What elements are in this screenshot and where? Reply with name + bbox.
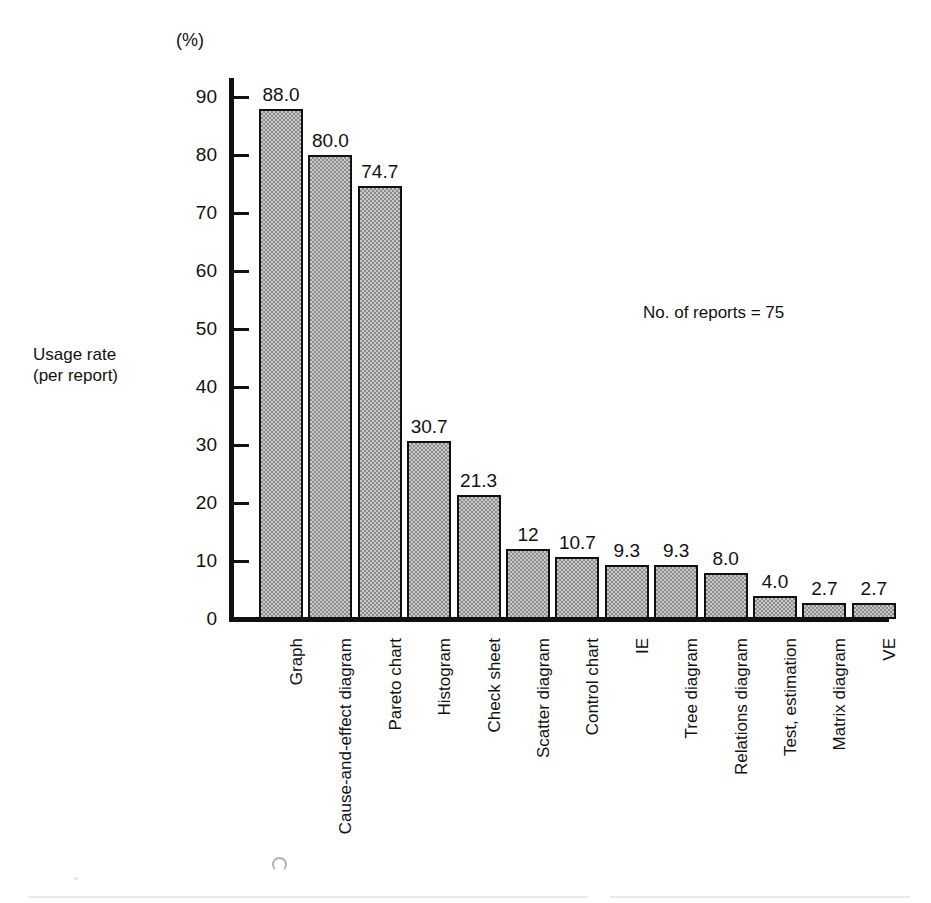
bar [259, 109, 303, 619]
x-axis-category-label: Control chart [584, 638, 601, 735]
bar [407, 441, 451, 619]
y-axis-tick-label: 90 [137, 87, 217, 106]
x-axis-category-label-text: Matrix diagram [831, 638, 848, 750]
bar-value-label: 80.0 [295, 131, 365, 150]
y-axis-tick-label-text: 70 [173, 203, 217, 222]
y-axis-tick [234, 328, 249, 331]
y-axis-tick-label-text: 80 [173, 145, 217, 164]
bar [358, 186, 402, 619]
y-axis-tick-label: 30 [137, 435, 217, 454]
x-axis-category-label: Cause-and-effect diagram [337, 638, 354, 834]
y-axis-line [229, 78, 234, 621]
y-axis-tick [234, 270, 249, 273]
bar [753, 596, 797, 619]
bar [308, 155, 352, 619]
y-axis-tick-label-text: 0 [173, 609, 217, 628]
bar [654, 565, 698, 619]
y-axis-tick-label: 20 [137, 493, 217, 512]
chart-annotation: No. of reports = 75 [643, 303, 784, 323]
x-axis-category-label: Tree diagram [683, 638, 700, 738]
bar-value-label: 21.3 [444, 471, 514, 490]
y-axis-title-line-1: Usage rate [33, 344, 118, 365]
y-axis-tick-label: 50 [137, 319, 217, 338]
x-axis-category-label: Histogram [436, 638, 453, 715]
scan-artifact-line [610, 896, 910, 898]
y-axis-title-line-2: (per report) [33, 365, 118, 386]
y-axis-title: Usage rate (per report) [33, 344, 118, 386]
x-axis-category-label-text: Test, estimation [782, 638, 799, 756]
y-axis-tick [234, 502, 249, 505]
x-axis-category-label-text: Scatter diagram [535, 638, 552, 758]
x-axis-category-label-text: Graph [288, 638, 305, 685]
x-axis-category-label-text: Control chart [584, 638, 601, 735]
x-axis-category-label: Matrix diagram [831, 638, 848, 750]
x-axis-category-label-text: Relations diagram [733, 638, 750, 775]
y-axis-tick [234, 560, 249, 563]
x-axis-category-label: Pareto chart [387, 638, 404, 731]
bar-value-label: 8.0 [691, 549, 761, 568]
x-axis-category-label: Test, estimation [782, 638, 799, 756]
y-axis-tick [234, 386, 249, 389]
y-axis-tick [234, 444, 249, 447]
y-axis-unit-label: (%) [176, 30, 204, 51]
y-axis-tick-label-text: 90 [173, 87, 217, 106]
x-axis-category-label-text: Check sheet [486, 638, 503, 733]
x-axis-category-label: Relations diagram [733, 638, 750, 775]
scan-artifact-line [28, 896, 588, 898]
y-axis-tick-label-text: 20 [173, 493, 217, 512]
bar-value-label: 74.7 [345, 162, 415, 181]
y-axis-tick-label: 10 [137, 551, 217, 570]
x-axis-category-label: VE [881, 638, 898, 661]
y-axis-tick-label: 0 [137, 609, 217, 628]
y-axis-tick-label: 60 [137, 261, 217, 280]
y-axis-tick-label-text: 40 [173, 377, 217, 396]
y-axis-tick-label-text: 30 [173, 435, 217, 454]
x-axis-category-label-text: Histogram [436, 638, 453, 715]
y-axis-tick-label-text: 10 [173, 551, 217, 570]
y-axis-tick [234, 154, 249, 157]
x-axis-category-label-text: VE [881, 638, 898, 661]
bar-value-label: 88.0 [246, 85, 316, 104]
scan-artifact-speck [74, 877, 78, 880]
y-axis-tick [234, 212, 249, 215]
scan-artifact-ring [272, 857, 287, 872]
x-axis-category-label: Graph [288, 638, 305, 685]
bar [852, 603, 896, 619]
x-axis-category-label-text: Pareto chart [387, 638, 404, 731]
x-axis-category-label: Scatter diagram [535, 638, 552, 758]
x-axis-category-label-text: IE [634, 638, 651, 654]
bar [555, 557, 599, 619]
bar-chart-figure: (%) Usage rate (per report) No. of repor… [0, 0, 931, 903]
bar [506, 549, 550, 619]
x-axis-category-label: Check sheet [486, 638, 503, 733]
x-axis-category-label: IE [634, 638, 651, 654]
bar [457, 495, 501, 619]
x-axis-category-label-text: Tree diagram [683, 638, 700, 738]
bar [802, 603, 846, 619]
bar [605, 565, 649, 619]
y-axis-tick-label: 40 [137, 377, 217, 396]
y-axis-tick-label: 70 [137, 203, 217, 222]
y-axis-tick-label-text: 50 [173, 319, 217, 338]
bar-value-label: 30.7 [394, 417, 464, 436]
y-axis-tick-label-text: 60 [173, 261, 217, 280]
x-axis-category-label-text: Cause-and-effect diagram [337, 638, 354, 834]
y-axis-tick-label: 80 [137, 145, 217, 164]
bar-value-label: 2.7 [839, 579, 909, 598]
